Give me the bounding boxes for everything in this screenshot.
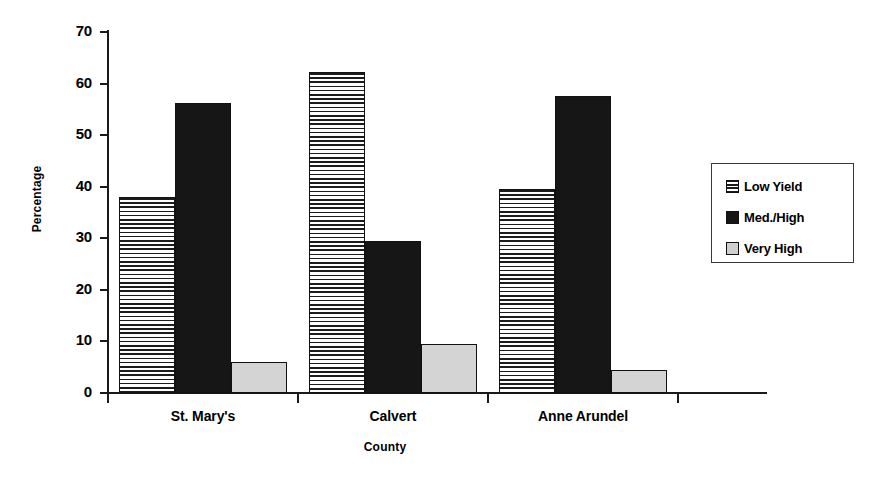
y-tick-label: 20 [32, 280, 92, 297]
bar-st-mary-s-very-high [231, 362, 287, 393]
legend-item[interactable]: Low Yield [726, 177, 802, 195]
x-tick-mark [487, 392, 489, 403]
striped-swatch-icon [726, 180, 739, 193]
x-category-label: St. Mary's [108, 408, 298, 424]
legend-item-label: Med./High [744, 210, 804, 225]
y-tick-label: 60 [32, 74, 92, 91]
bar-st-mary-s-med-high [175, 103, 231, 393]
y-tick-label: 70 [32, 22, 92, 39]
y-tick-label: 10 [32, 331, 92, 348]
bar-calvert-low-yield [309, 72, 365, 393]
x-category-label: Calvert [298, 408, 488, 424]
bar-st-mary-s-low-yield [119, 197, 175, 393]
x-axis-title: County [0, 440, 770, 454]
x-tick-mark [677, 392, 679, 403]
bar-anne-arundel-low-yield [499, 189, 555, 393]
plot-area [108, 32, 678, 393]
bar-anne-arundel-med-high [555, 96, 611, 393]
x-tick-mark [107, 392, 109, 403]
y-tick-label: 0 [32, 383, 92, 400]
bar-calvert-very-high [421, 344, 477, 393]
x-category-label: Anne Arundel [488, 408, 678, 424]
black-swatch-icon [726, 211, 739, 224]
bar-chart: 010203040506070 Percentage St. Mary'sCal… [0, 0, 882, 477]
chart-legend: Low YieldMed./HighVery High [711, 163, 854, 263]
gray-swatch-icon [726, 242, 739, 255]
legend-item-label: Very High [744, 241, 802, 256]
bar-anne-arundel-very-high [611, 370, 667, 393]
bar-calvert-med-high [365, 241, 421, 393]
legend-item[interactable]: Med./High [726, 208, 804, 226]
y-axis-title: Percentage [30, 129, 44, 269]
legend-item-label: Low Yield [744, 179, 802, 194]
legend-item[interactable]: Very High [726, 239, 802, 257]
x-tick-mark [297, 392, 299, 403]
